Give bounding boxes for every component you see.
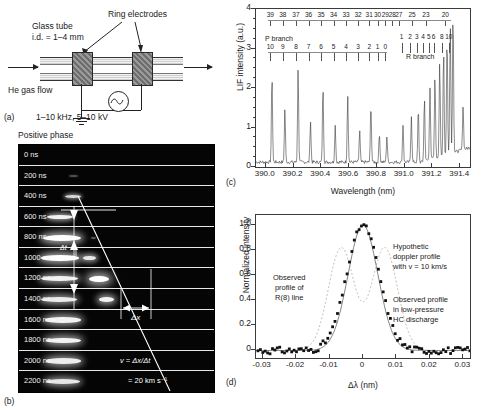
panel-c-branch-tick [417, 43, 418, 53]
annotation-observed-r8: Observed profile of R(8) line [273, 273, 306, 303]
panel-c-y-minor-tick [253, 57, 256, 58]
annotation-hypothetic-doppler: Hypothetic doppler profile with v = 10 k… [393, 242, 447, 272]
doppler-data-marker [428, 350, 431, 353]
panel-c-x-tick-mark [320, 163, 321, 168]
panel-c-y-tick-label: 1 [229, 122, 251, 131]
panel-c-lif-spectrum: LIF intensity (a.u.) Wavelength (nm) (c)… [226, 0, 483, 200]
iccd-frame-time-label: 800 ns [24, 232, 47, 241]
panel-c-y-minor-tick [253, 156, 256, 157]
iccd-frame-time-label: 1000 ns [24, 253, 51, 262]
doppler-data-marker [331, 325, 334, 328]
panel-c-branch-tick [402, 43, 403, 53]
circuit-wire-bottom [81, 110, 141, 111]
doppler-data-marker [375, 256, 378, 259]
panel-d-y-tick-mark [251, 274, 255, 275]
iccd-frame-time-label: 1800 ns [24, 335, 51, 344]
panel-c-branch-rule [268, 20, 451, 21]
iccd-frame-time-label: 400 ns [24, 191, 47, 200]
label-delta-x: Δx [131, 314, 140, 322]
panel-d-doppler-profile: Normalized intensity Δλ (nm) (d) 00.20.4… [226, 200, 483, 413]
panel-d-y-tick-mark [251, 224, 255, 225]
annotation-low-pressure-line1: Observed profile [393, 295, 448, 305]
panel-c-y-minor-tick [253, 77, 256, 78]
doppler-data-marker [394, 332, 397, 335]
doppler-data-marker [281, 351, 284, 354]
doppler-data-marker [404, 343, 407, 346]
doppler-data-marker [322, 340, 325, 343]
panel-c-branch-number: 25 [405, 12, 419, 19]
doppler-data-marker [416, 346, 419, 349]
doppler-data-marker [319, 343, 322, 346]
doppler-data-marker [276, 347, 279, 350]
label-positive-phase: Positive phase [18, 131, 73, 140]
panel-c-branch-tick [385, 21, 386, 26]
doppler-data-marker [341, 294, 344, 297]
doppler-data-marker [466, 346, 469, 349]
doppler-data-marker [401, 344, 404, 347]
panel-d-y-tick-label: 1.0 [227, 219, 251, 228]
doppler-data-marker [432, 350, 435, 353]
panel-c-branch-tick [358, 53, 359, 61]
doppler-data-marker [346, 273, 349, 276]
iccd-frame-time-label: 1200 ns [24, 273, 51, 282]
label-he-gas-flow: He gas flow [8, 86, 52, 95]
doppler-data-marker [464, 348, 467, 351]
doppler-data-marker [298, 348, 301, 351]
panel-c-branch-tick [442, 43, 443, 53]
panel-b-annotation-overlay [18, 144, 213, 391]
annotation-low-pressure-hc: Observed profile in low-pressure HC disc… [393, 295, 448, 325]
iccd-frame-time-label: 2000 ns [24, 356, 51, 365]
doppler-data-marker [425, 352, 428, 355]
panel-c-y-tick-label: 4 [229, 3, 251, 12]
doppler-data-marker [274, 349, 277, 352]
iccd-frame-time-label: 2200 ns [24, 376, 51, 385]
panel-d-x-tick-mark [329, 354, 330, 359]
panel-c-x-tick-mark [404, 163, 405, 168]
panel-d-x-tick-mark [429, 354, 430, 359]
panel-c-branch-tick [392, 21, 393, 26]
panel-c-x-axis-label: Wavelength (nm) [255, 186, 471, 196]
panel-d-x-tick-label: 0.01 [378, 361, 412, 369]
panel-c-branch-tick [399, 21, 400, 26]
doppler-data-marker [343, 280, 346, 283]
panel-c-branch-tick [296, 53, 297, 61]
panel-c-branch-number: 27 [392, 12, 406, 19]
doppler-data-marker [269, 352, 272, 355]
panel-d-y-tick-mark [251, 349, 255, 350]
doppler-data-marker [456, 346, 459, 349]
panel-c-branch-tick [385, 53, 386, 61]
sine-wave-icon [110, 98, 125, 105]
panel-a-tag: (a) [4, 113, 14, 122]
panel-c-x-tick-mark [431, 163, 432, 168]
panel-c-branch-tick [369, 21, 370, 26]
gas-inlet-arrow-icon [8, 67, 38, 68]
panel-c-y-minor-tick [253, 97, 256, 98]
panel-d-x-tick-label: 0.02 [412, 361, 446, 369]
panel-d-y-tick-mark [251, 324, 255, 325]
panel-c-branch-tick [309, 21, 310, 26]
panel-c-x-tick-mark [265, 163, 266, 168]
panel-d-x-tick-label: -0.01 [312, 361, 346, 369]
panel-d-x-tick-mark [262, 354, 263, 359]
annotation-hypothetic-line3: with v = 10 km/s [393, 262, 447, 272]
panel-c-y-tick-label: 2 [229, 82, 251, 91]
panel-d-x-tick-mark [295, 354, 296, 359]
panel-d-y-tick-label: 0.6 [227, 269, 251, 278]
doppler-data-marker [259, 348, 262, 351]
panel-c-branch-tick [378, 53, 379, 61]
doppler-data-marker [389, 317, 392, 320]
panel-c-branch-tick [434, 43, 435, 53]
label-tube-inner-diameter: i.d. = 1–4 mm [32, 33, 84, 42]
panel-b-tag: (b) [4, 397, 14, 406]
doppler-data-marker [310, 348, 313, 351]
panel-c-branch-tick [369, 53, 370, 61]
doppler-data-marker [300, 347, 303, 350]
panel-c-branch-tick [423, 43, 424, 53]
panel-d-y-tick-mark [251, 299, 255, 300]
ring-electrode-2-graphic [132, 52, 153, 86]
panel-c-branch-tick [321, 21, 322, 26]
annotation-observed-r8-line1: Observed [273, 273, 306, 283]
label-r-branch: R branch [406, 53, 434, 60]
panel-c-branch-tick [296, 21, 297, 26]
doppler-data-marker [454, 346, 457, 349]
